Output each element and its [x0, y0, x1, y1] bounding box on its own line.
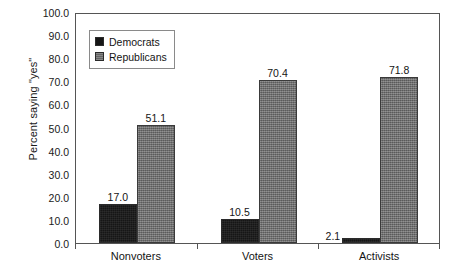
y-axis-tick-label: 40.0 [0, 146, 69, 158]
legend-swatch-republicans [95, 52, 104, 61]
y-axis-tick-label: 100.0 [0, 7, 69, 19]
y-axis-tick-label: 20.0 [0, 192, 69, 204]
bar-value-label: 17.0 [108, 191, 128, 203]
x-axis-category-labels: NonvotersVotersActivists [75, 250, 440, 270]
x-axis-tick [197, 244, 198, 249]
y-axis-tick-label: 90.0 [0, 30, 69, 42]
bar-voters-democrats: 10.5 [221, 219, 259, 243]
y-axis-tick-label: 70.0 [0, 76, 69, 88]
legend-label: Democrats [109, 36, 160, 48]
legend-item-republicans: Republicans [95, 50, 167, 63]
legend-item-democrats: Democrats [95, 35, 167, 48]
y-axis-tick-label: 30.0 [0, 169, 69, 181]
y-axis-tick-labels: 100.090.080.070.060.050.040.030.020.010.… [0, 0, 71, 273]
y-axis-tick-label: 80.0 [0, 53, 69, 65]
bar-voters-republicans: 70.4 [259, 80, 297, 243]
y-axis-tick-label: 0.0 [0, 238, 69, 250]
bar-activists-democrats: 2.1 [342, 238, 380, 243]
x-axis-label-voters: Voters [242, 250, 273, 262]
legend-label: Republicans [109, 51, 167, 63]
y-axis-tick-label: 60.0 [0, 99, 69, 111]
bar-value-label: 51.1 [146, 112, 166, 124]
x-axis-tick [439, 244, 440, 249]
y-axis-tick-label: 10.0 [0, 215, 69, 227]
bar-value-label: 70.4 [267, 67, 287, 79]
bar-value-label: 10.5 [229, 206, 249, 218]
chart-legend: DemocratsRepublicans [89, 30, 175, 69]
y-axis-tick-label: 50.0 [0, 123, 69, 135]
x-axis-tick [318, 244, 319, 249]
bar-chart: Percent saying "yes" 100.090.080.070.060… [0, 0, 453, 273]
x-axis-label-nonvoters: Nonvoters [111, 250, 161, 262]
bar-nonvoters-democrats: 17.0 [99, 204, 137, 243]
bar-nonvoters-republicans: 51.1 [137, 125, 175, 243]
legend-swatch-democrats [95, 37, 104, 46]
bar-activists-republicans: 71.8 [380, 77, 418, 243]
x-axis-label-activists: Activists [359, 250, 399, 262]
bar-value-label: 2.1 [326, 230, 341, 242]
x-axis-tick [75, 244, 76, 249]
bar-value-label: 71.8 [389, 64, 409, 76]
